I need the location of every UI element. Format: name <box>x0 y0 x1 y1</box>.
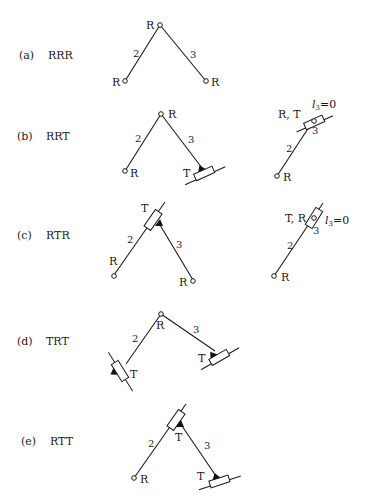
joint-label: R <box>179 276 188 289</box>
revolute-joint-icon <box>272 274 277 279</box>
joint-label: R, T <box>278 108 301 121</box>
joint-label: R <box>281 271 290 284</box>
joint-label: T <box>197 470 205 483</box>
link-3 <box>160 225 193 280</box>
revolute-joint-icon <box>312 216 317 221</box>
row-tag: (c) <box>17 229 32 242</box>
link-label: 2 <box>133 48 139 59</box>
link-label: 2 <box>287 240 293 251</box>
joint-label: T <box>175 431 183 444</box>
joint-label: T, R <box>285 212 307 225</box>
joint-label: T <box>141 202 149 215</box>
link-label: 3 <box>312 125 318 136</box>
revolute-joint-icon <box>123 79 128 84</box>
row-type: RTR <box>46 229 70 242</box>
joint-label: T <box>198 352 206 365</box>
row-type: RRR <box>48 49 74 62</box>
row-type: RRT <box>46 130 70 143</box>
length-note: l3=0 <box>312 98 336 112</box>
joint-label: R <box>168 108 177 121</box>
link-3 <box>161 314 215 351</box>
joint-label: R <box>283 171 292 184</box>
revolute-joint-icon <box>123 169 128 174</box>
revolute-joint-icon <box>112 274 117 279</box>
link-label: 3 <box>190 49 196 60</box>
row-b: (b) RRT R R T 2 3 R, T R 2 3 l3=0 <box>17 98 336 186</box>
joint-label: T <box>183 167 191 180</box>
row-d: (d) TRT R T T 2 3 <box>17 312 240 397</box>
link-label: 3 <box>188 134 194 145</box>
link-2 <box>125 25 160 81</box>
joint-label: R <box>109 255 118 268</box>
revolute-joint-icon <box>275 174 280 179</box>
revolute-joint-icon <box>159 312 164 317</box>
link-2 <box>125 114 161 171</box>
joint-label: R <box>211 76 220 89</box>
revolute-joint-icon <box>191 279 196 284</box>
joint-label: R <box>130 167 139 180</box>
row-a: (a) RRR R R R 2 3 <box>19 19 220 89</box>
link-label: 2 <box>127 234 133 245</box>
link-label: 2 <box>132 333 138 344</box>
joint-label: R <box>112 76 121 89</box>
link-3 <box>160 25 206 81</box>
revolute-joint-icon <box>158 23 163 28</box>
row-e: (e) RTT T R T 2 3 <box>21 404 241 492</box>
row-type: TRT <box>46 335 69 348</box>
row-tag: (b) <box>17 130 33 143</box>
link-label: 2 <box>148 438 154 449</box>
row-tag: (e) <box>21 435 36 448</box>
link-label: 3 <box>204 440 210 451</box>
link-label: 3 <box>176 239 182 250</box>
row-tag: (a) <box>19 49 34 62</box>
length-note: l3=0 <box>325 214 349 228</box>
joint-label: T <box>130 368 138 381</box>
revolute-joint-icon <box>204 79 209 84</box>
link-3 <box>182 426 216 476</box>
link-3 <box>161 114 202 168</box>
row-tag: (d) <box>17 335 33 348</box>
joint-label: R <box>146 19 155 32</box>
row-type: RTT <box>50 435 74 448</box>
link-label: 3 <box>313 225 319 236</box>
row-c: (c) RTR T R R 2 3 T, R R 2 3 l3=0 <box>17 202 349 289</box>
kinematic-chain-figure: (a) RRR R R R 2 3 (b) RRT R R T 2 3 <box>0 0 371 501</box>
revolute-joint-icon <box>312 119 317 124</box>
revolute-joint-icon <box>132 476 137 481</box>
link-label: 2 <box>135 133 141 144</box>
revolute-joint-icon <box>159 112 164 117</box>
link-label: 2 <box>286 143 292 154</box>
link-label: 3 <box>193 324 199 335</box>
joint-label: R <box>156 319 165 332</box>
joint-label: R <box>140 473 149 486</box>
